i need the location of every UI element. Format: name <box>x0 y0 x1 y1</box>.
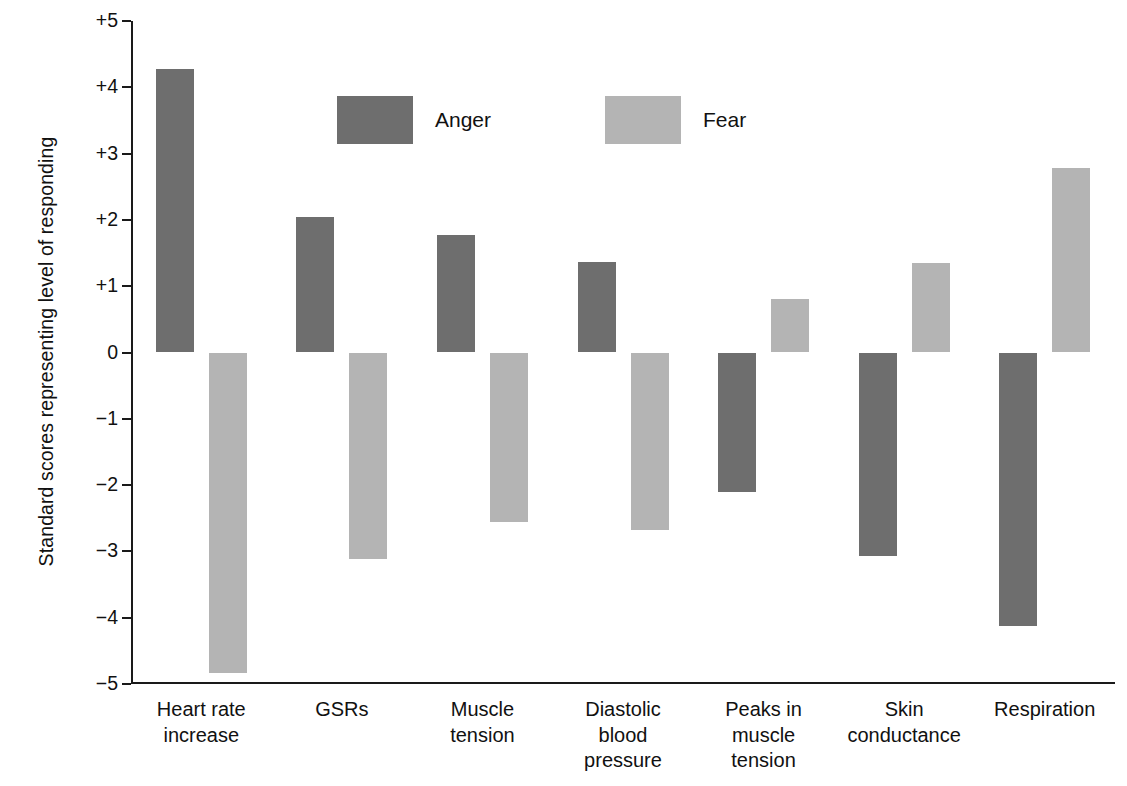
y-axis-line <box>131 21 133 684</box>
y-axis-title: Standard scores representing level of re… <box>35 42 58 662</box>
bar-anger-1 <box>296 217 334 353</box>
bar-fear-4 <box>771 299 809 353</box>
bar-fear-5 <box>912 263 950 353</box>
bar-anger-6 <box>999 353 1037 627</box>
y-tick-mark <box>122 153 131 155</box>
bar-fear-1 <box>349 353 387 560</box>
bar-anger-2 <box>437 235 475 352</box>
legend-entry-anger: Anger <box>337 96 491 144</box>
y-tick-label: −1 <box>58 409 118 429</box>
y-tick-label: 0 <box>58 343 118 363</box>
bar-anger-4 <box>718 353 756 493</box>
y-tick-label: +3 <box>58 144 118 164</box>
bar-anger-0 <box>156 69 194 353</box>
y-tick-label: −3 <box>58 541 118 561</box>
legend-swatch-anger <box>337 96 413 144</box>
y-tick-mark <box>122 219 131 221</box>
y-tick-label: +1 <box>58 276 118 296</box>
legend-label-fear: Fear <box>703 108 746 132</box>
y-tick-mark <box>122 683 131 685</box>
y-tick-mark <box>122 550 131 552</box>
bar-anger-5 <box>859 353 897 557</box>
legend-label-anger: Anger <box>435 108 491 132</box>
legend-entry-fear: Fear <box>605 96 746 144</box>
y-tick-mark <box>122 418 131 420</box>
y-tick-label: −2 <box>58 475 118 495</box>
y-tick-mark <box>122 86 131 88</box>
y-tick-mark <box>122 484 131 486</box>
y-tick-label: +5 <box>58 11 118 31</box>
bar-anger-3 <box>578 262 616 352</box>
y-tick-mark <box>122 285 131 287</box>
y-tick-mark <box>122 352 131 354</box>
bar-fear-2 <box>490 353 528 523</box>
legend-swatch-fear <box>605 96 681 144</box>
bar-chart-figure: Standard scores representing level of re… <box>0 0 1127 786</box>
bar-fear-0 <box>209 353 247 674</box>
y-tick-label: −4 <box>58 608 118 628</box>
y-tick-label: +2 <box>58 210 118 230</box>
bar-fear-3 <box>631 353 669 531</box>
x-axis-line <box>131 682 1115 684</box>
y-tick-label: −5 <box>58 674 118 694</box>
y-tick-mark <box>122 20 131 22</box>
x-tick-label: Respiration <box>935 697 1127 723</box>
bar-fear-6 <box>1052 168 1090 353</box>
y-tick-label: +4 <box>58 77 118 97</box>
y-tick-mark <box>122 617 131 619</box>
